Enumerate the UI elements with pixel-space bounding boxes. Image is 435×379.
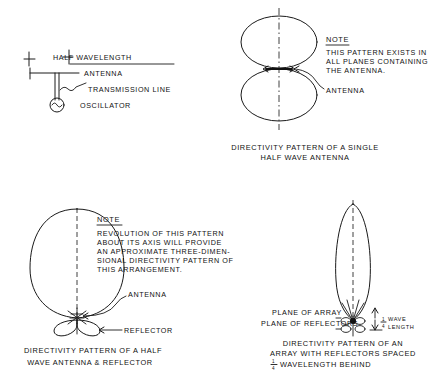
oscillator-label: OSCILLATOR	[80, 101, 131, 110]
note-line: ALL PLANES CONTAINING	[326, 57, 428, 66]
array-with-reflectors-pattern: 1 4 WAVE LENGTH PLANE OF ARRAY PLANE OF …	[261, 200, 416, 371]
note-line: THIS ARRANGEMENT.	[97, 265, 182, 274]
spacing-numerator: 1	[382, 317, 385, 322]
caption-line: DIRECTIVITY PATTERN OF AN	[283, 339, 404, 348]
spacing-unit-line-2: LENGTH	[388, 324, 414, 330]
half-wave-antenna-and-reflector-pattern: ANTENNA REFLECTOR NOTE REVOLUTION OF THI…	[24, 208, 234, 367]
note-line: THIS PATTERN EXISTS IN	[326, 48, 427, 57]
caption-line: DIRECTIVITY PATTERN OF A SINGLE	[231, 143, 379, 152]
caption-line: HALF WAVE ANTENNA	[260, 153, 349, 162]
antenna-leader	[84, 296, 126, 316]
note-line: AN APPROXIMATE THREE-DIMEN-	[97, 247, 230, 256]
transmission-line-leader	[60, 83, 86, 91]
spacing-unit-line-1: WAVE	[388, 316, 406, 322]
oscillator-sine-icon	[52, 103, 62, 107]
caption-line: WAVELENGTH BEHIND	[280, 360, 371, 369]
back-lobe-left	[54, 320, 77, 336]
antenna-leader	[296, 69, 324, 89]
plane-of-reflectors-label: PLANE OF REFLECTORS	[261, 319, 358, 328]
note-line: THE ANTENNA.	[326, 66, 386, 75]
note-line: REVOLUTION OF THIS PATTERN	[97, 229, 224, 238]
note-line: SIONAL DIRECTIVITY PATTERN OF	[97, 256, 234, 265]
note-line: ABOUT ITS AXIS WILL PROVIDE	[97, 238, 222, 247]
dimension-label: HALF WAVELENGTH	[53, 53, 132, 62]
antenna-label: ANTENNA	[326, 86, 365, 95]
single-half-wave-antenna-pattern: ANTENNA NOTE THIS PATTERN EXISTS IN ALL …	[231, 8, 428, 162]
caption-fraction-denominator: 4	[272, 366, 275, 371]
caption-line: WAVE ANTENNA & REFLECTOR	[27, 358, 153, 367]
back-lobe-right	[77, 320, 100, 336]
caption-fraction-numerator: 1	[272, 359, 275, 364]
transmission-line-label: TRANSMISSION LINE	[88, 85, 171, 94]
note-heading: NOTE	[97, 215, 120, 224]
main-lobe	[336, 204, 371, 320]
antenna-label: ANTENNA	[128, 290, 167, 299]
plane-of-array-label: PLANE OF ARRAY	[272, 308, 342, 317]
spacing-denominator: 4	[382, 324, 385, 329]
figure-canvas: HALF WAVELENGTH ANTENNA TRANSMISSION LIN…	[0, 0, 435, 379]
reflector-label: REFLECTOR	[124, 326, 173, 335]
note-heading: NOTE	[326, 35, 349, 44]
caption-line: ARRAY WITH REFLECTORS SPACED	[270, 349, 416, 358]
caption-line: DIRECTIVITY PATTERN OF A HALF	[24, 346, 162, 355]
half-wavelength-antenna-schematic: HALF WAVELENGTH ANTENNA TRANSMISSION LIN…	[24, 50, 174, 112]
diagram-svg: HALF WAVELENGTH ANTENNA TRANSMISSION LIN…	[0, 0, 435, 379]
antenna-label: ANTENNA	[84, 69, 123, 78]
